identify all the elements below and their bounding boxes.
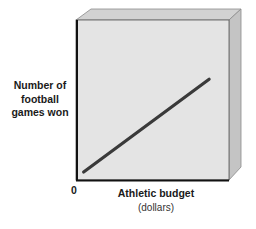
y-axis-label-line-2: football — [6, 93, 74, 107]
y-axis-label-line-1: Number of — [6, 79, 74, 93]
y-axis-label: Number of football games won — [6, 79, 74, 120]
plot-area — [76, 20, 229, 180]
box-side-face — [229, 9, 241, 180]
box-top-face — [76, 9, 241, 20]
y-axis-label-line-3: games won — [6, 106, 74, 120]
origin-label: 0 — [71, 184, 77, 196]
x-axis-label: Athletic budget — [100, 187, 212, 199]
x-axis-unit: (dollars) — [100, 202, 212, 213]
